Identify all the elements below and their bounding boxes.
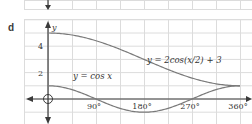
graph-plot: 90°180°270°360°24yy = 2cos(x/2) + 3y = c…: [0, 0, 252, 124]
y-axis-label: y: [51, 23, 57, 32]
x-tick-label: 360°: [228, 102, 247, 111]
y-tick-label: 2: [38, 69, 43, 78]
x-tick-label: 180°: [132, 102, 151, 111]
equation-label-shifted-cosine: y = 2cos(x/2) + 3: [146, 55, 222, 65]
part-label: d: [8, 22, 14, 33]
x-tick-label: 270°: [180, 102, 199, 111]
y-tick-label: 4: [38, 42, 43, 51]
graph-figure: d 90°180°270°360°24yy = 2cos(x/2) + 3y =…: [0, 0, 252, 124]
previous-graph-grid-strip: [24, 0, 252, 10]
down-arrow-icon: [45, 117, 51, 124]
equation-label-cosine: y = cos x: [72, 71, 112, 81]
up-arrow-icon: [45, 21, 51, 28]
x-tick-label: 90°: [87, 102, 101, 111]
left-arrow-icon: [26, 96, 33, 102]
